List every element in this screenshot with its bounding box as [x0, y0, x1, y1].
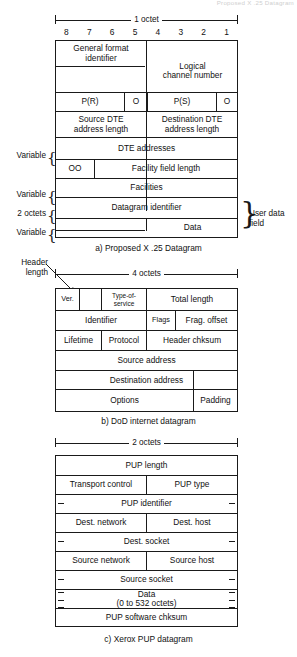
x25-packet-frame: General format identifier Logical channe… [55, 40, 238, 238]
field-lifetime: Lifetime [56, 331, 101, 350]
dod-caption: b) DoD internet datagram [0, 416, 297, 426]
field-version: Ver. [56, 289, 79, 310]
field-options: Options [56, 391, 193, 411]
pup-caption: c) Xerox PUP datagram [0, 634, 297, 644]
field-destination-address: Destination address [56, 371, 237, 390]
pup-continuation-tick [58, 607, 64, 608]
field-logical-channel-number: Logical channel number [148, 51, 237, 91]
figure-packet-formats: Proposed X .25 Datagram 1 octet 8 7 6 5 … [0, 0, 297, 657]
bit-number: 1 [215, 27, 238, 37]
field-type-of-service: Type-of- service [102, 289, 146, 310]
bit-number: 8 [55, 27, 78, 37]
x25-data-notch-divider [146, 219, 147, 231]
x25-brace-1: { [47, 153, 57, 163]
field-oo: OO [56, 160, 94, 178]
pup-ruler-label: 2 octets [129, 438, 164, 447]
x25-ruler-label: 1 octet [131, 15, 162, 24]
x25-bit-numbers: 8 7 6 5 4 3 2 1 [55, 27, 238, 37]
pup-continuation-tick [229, 600, 235, 601]
x25-right-label-user-data-field: User data field [249, 209, 297, 229]
field-general-format-identifier: General format identifier [56, 41, 146, 66]
field-pup-software-chksum: PUP software chksum [56, 609, 237, 627]
pup-continuation-tick [58, 541, 64, 542]
bit-number: 6 [101, 27, 124, 37]
pup-continuation-tick [58, 600, 64, 601]
pup-continuation-tick [58, 579, 64, 580]
dod-rule-options-top [55, 389, 238, 390]
field-source-dte-address-length: Source DTE address length [56, 112, 146, 137]
x25-side-label-2-octets: 2 octets [2, 209, 46, 219]
x25-side-label-variable-2: Variable [2, 190, 46, 200]
pup-continuation-tick [229, 541, 235, 542]
pup-octet-ruler: 2 octets [55, 437, 238, 448]
field-data: Data [148, 219, 237, 237]
field-o-1: O [125, 93, 147, 111]
pup-continuation-tick [58, 592, 64, 593]
x25-side-label-variable-1: Variable [2, 151, 46, 161]
field-identifier: Identifier [56, 311, 146, 330]
bit-number: 7 [78, 27, 101, 37]
field-datagram-identifier: Datagram identifier [56, 198, 237, 218]
field-ps: P(S) [148, 93, 216, 111]
dod-octet-ruler: 4 octets [55, 268, 238, 279]
pup-continuation-tick [58, 503, 64, 504]
field-source-socket: Source socket [56, 571, 237, 589]
x25-brace-2: { [47, 192, 57, 202]
field-facilities: Facilities [56, 179, 237, 197]
field-total-length: Total length [147, 289, 237, 310]
field-source-address: Source address [56, 351, 237, 370]
cropped-header-text: Proposed X .25 Datagram [152, 0, 294, 8]
bit-number: 4 [147, 27, 170, 37]
field-pup-length: PUP length [56, 456, 237, 475]
pup-continuation-tick [229, 503, 235, 504]
pup-continuation-tick [229, 592, 235, 593]
x25-caption: a) Proposed X .25 Datagram [0, 243, 297, 253]
dod-packet-frame: Ver. Type-of- service Total length Ident… [55, 288, 238, 412]
field-padding: Padding [194, 391, 237, 411]
field-o-2: O [217, 93, 237, 111]
field-pup-type: PUP type [147, 476, 237, 494]
bit-number: 5 [124, 27, 147, 37]
field-dest-socket: Dest. socket [56, 533, 237, 551]
bit-number: 3 [169, 27, 192, 37]
x25-side-label-variable-3: Variable [2, 228, 46, 238]
field-header-checksum: Header chksum [147, 331, 237, 350]
field-dte-addresses: DTE addresses [56, 138, 237, 159]
field-transport-control: Transport control [56, 476, 146, 494]
pup-packet-frame: PUP length Transport control PUP type PU… [55, 455, 238, 627]
field-fragment-offset: Frag. offset [176, 311, 237, 330]
field-pup-identifier: PUP identifier [56, 495, 237, 513]
x25-gfi-step-rule [56, 66, 145, 67]
field-pup-data: Data (0 to 532 octets) [56, 590, 237, 608]
x25-brace-3: { [47, 211, 57, 221]
x25-octet-ruler: 1 octet [55, 14, 238, 25]
x25-data-notch-rule [56, 230, 145, 231]
dod-ver-divider [79, 289, 80, 310]
dod-ruler-label: 4 octets [129, 269, 164, 278]
field-protocol: Protocol [102, 331, 146, 350]
field-dest-host: Dest. host [147, 514, 237, 532]
x25-brace-4: { [47, 230, 57, 240]
bit-number: 2 [192, 27, 215, 37]
pup-continuation-tick [229, 607, 235, 608]
field-facility-field-length: Facility field length [95, 160, 237, 178]
field-dest-network: Dest. network [56, 514, 146, 532]
field-destination-dte-address-length: Destination DTE address length [147, 112, 237, 137]
pup-continuation-tick [229, 579, 235, 580]
field-flags: Flags [147, 311, 175, 330]
field-source-network: Source network [56, 552, 146, 570]
field-pr: P(R) [56, 93, 124, 111]
dod-pointer-label-header-length: Header length [4, 258, 48, 277]
field-source-host: Source host [147, 552, 237, 570]
